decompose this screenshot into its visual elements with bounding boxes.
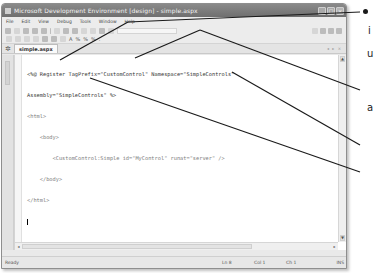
close-button[interactable]: × — [336, 7, 344, 15]
format-percent-2[interactable]: % — [83, 36, 88, 42]
decrease-indent-icon[interactable] — [42, 36, 48, 42]
format-dot[interactable]: . — [99, 36, 101, 42]
scroll-right-arrow[interactable]: ▸ — [332, 244, 337, 249]
status-line: Ln 8 — [222, 260, 254, 265]
editor-gutter — [15, 55, 22, 242]
title-bar[interactable]: Microsoft Development Environment [desig… — [2, 4, 346, 17]
tab-simple-aspx[interactable]: simple.aspx — [14, 44, 58, 53]
menu-tools[interactable]: Tools — [80, 19, 91, 24]
standard-toolbar — [2, 26, 346, 35]
code-line-5: <CustomControl:Simple id="MyControl" run… — [27, 155, 234, 162]
callout-bullet-1 — [363, 9, 368, 14]
new-project-icon[interactable] — [5, 28, 11, 34]
solution-config-dropdown[interactable] — [117, 28, 177, 34]
code-line-8 — [27, 218, 234, 225]
code-line-6: </body> — [27, 176, 234, 183]
format-percent-3[interactable]: % — [91, 36, 96, 42]
scroll-down-arrow[interactable]: ▼ — [340, 235, 345, 241]
start-debug-icon[interactable] — [99, 28, 105, 34]
vertical-scrollbar[interactable]: ▲ ▼ — [338, 55, 346, 242]
redo-icon[interactable] — [90, 28, 96, 34]
format-a[interactable]: A — [69, 36, 72, 42]
code-line-7: </html> — [27, 197, 234, 204]
status-column: Col 1 — [254, 260, 286, 265]
find-icon[interactable] — [312, 28, 318, 34]
ide-window: Microsoft Development Environment [desig… — [1, 3, 347, 269]
properties-icon[interactable] — [328, 28, 334, 34]
outdent-icon[interactable] — [15, 36, 21, 42]
save-all-icon[interactable] — [41, 28, 47, 34]
code-content[interactable]: <%@ Register TagPrefix="CustomControl" N… — [27, 57, 234, 239]
formatting-toolbar: A % % % . — [2, 35, 346, 44]
code-editor[interactable]: <%@ Register TagPrefix="CustomControl" N… — [14, 55, 346, 250]
toolbox-icon[interactable] — [336, 28, 342, 34]
callout-text-3: a — [367, 102, 373, 113]
app-icon — [5, 8, 11, 14]
text-caret — [27, 219, 28, 225]
menu-debug[interactable]: Debug — [57, 19, 72, 24]
indent-icon[interactable] — [6, 36, 12, 42]
status-ready: Ready — [2, 260, 222, 265]
copy-icon[interactable] — [63, 28, 69, 34]
menu-view[interactable]: View — [38, 19, 49, 24]
status-char: Ch 1 — [286, 260, 318, 265]
horizontal-scrollbar[interactable]: ◂ ▸ — [15, 242, 338, 250]
add-item-icon[interactable] — [14, 28, 20, 34]
code-line-1: <%@ Register TagPrefix="CustomControl" N… — [27, 71, 234, 78]
open-file-icon[interactable] — [23, 28, 29, 34]
undo-icon[interactable] — [81, 28, 87, 34]
increase-indent-icon[interactable] — [51, 36, 57, 42]
scroll-up-arrow[interactable]: ▲ — [340, 56, 345, 62]
uncomment-icon[interactable] — [33, 36, 39, 42]
solution-explorer-icon[interactable] — [320, 28, 326, 34]
cut-icon[interactable] — [54, 28, 60, 34]
menu-edit[interactable]: Edit — [22, 19, 31, 24]
menu-bar: File Edit View Debug Tools Window Help — [2, 17, 346, 26]
comment-icon[interactable] — [24, 36, 30, 42]
toolbox-panel[interactable] — [2, 55, 14, 250]
document-tab-row: ✲ simple.aspx ◂ ▸ × — [2, 44, 346, 54]
workspace: <%@ Register TagPrefix="CustomControl" N… — [2, 55, 346, 250]
window-title: Microsoft Development Environment [desig… — [14, 7, 198, 14]
toolbox-tab[interactable] — [5, 61, 10, 85]
status-insert-mode: INS — [336, 260, 346, 265]
format-percent-1[interactable]: % — [75, 36, 80, 42]
code-line-3: <html> — [27, 113, 234, 120]
toolbar-separator — [50, 28, 51, 34]
menu-window[interactable]: Window — [99, 19, 117, 24]
callout-text-1: i — [368, 25, 371, 36]
menu-help[interactable]: Help — [125, 19, 135, 24]
status-bar: Ready Ln 8 Col 1 Ch 1 INS — [2, 256, 346, 268]
code-line-2: Assembly="SimpleControls" %> — [27, 92, 234, 99]
toolbar-right-group — [312, 28, 346, 34]
horizontal-scroll-thumb[interactable] — [22, 244, 252, 249]
maximize-button[interactable]: □ — [327, 7, 335, 15]
config-icon[interactable] — [108, 28, 114, 34]
window-controls: _ □ × — [318, 7, 346, 15]
paste-icon[interactable] — [72, 28, 78, 34]
minimize-button[interactable]: _ — [318, 7, 326, 15]
tab-navigation[interactable]: ◂ ▸ × — [327, 44, 346, 53]
bookmark-icon[interactable] — [60, 36, 66, 42]
toolbox-pin-icon[interactable]: ✲ — [2, 44, 14, 53]
code-line-4: <body> — [27, 134, 234, 141]
save-icon[interactable] — [32, 28, 38, 34]
menu-file[interactable]: File — [6, 19, 14, 24]
callout-text-2: u — [367, 48, 373, 59]
scroll-left-arrow[interactable]: ◂ — [16, 244, 21, 249]
